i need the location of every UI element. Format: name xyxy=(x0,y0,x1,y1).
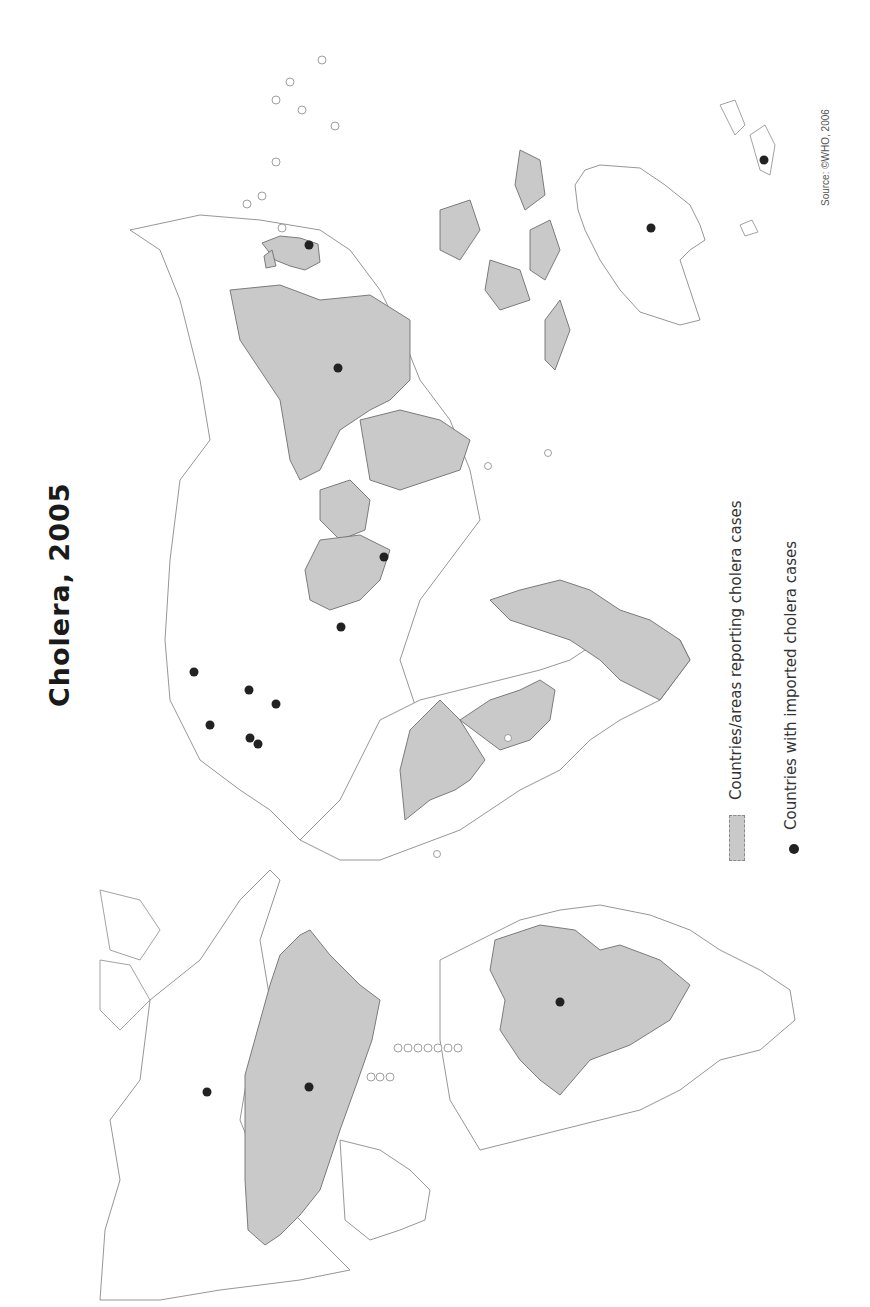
legend-swatch-reporting xyxy=(729,815,745,861)
southeast-asia-islands xyxy=(440,150,570,370)
oceania xyxy=(575,100,775,325)
legend-label-reporting: Countries/areas reporting cholera cases xyxy=(727,500,745,800)
north-america xyxy=(100,870,430,1300)
legend-label-imported: Countries with imported cholera cases xyxy=(782,541,800,830)
map-title: Cholera, 2005 xyxy=(44,483,75,708)
legend-dot-imported-icon xyxy=(789,844,799,854)
south-america xyxy=(440,905,795,1150)
source-credit: Source: ©WHO, 2006 xyxy=(820,109,831,206)
pacific-markers xyxy=(243,56,339,232)
